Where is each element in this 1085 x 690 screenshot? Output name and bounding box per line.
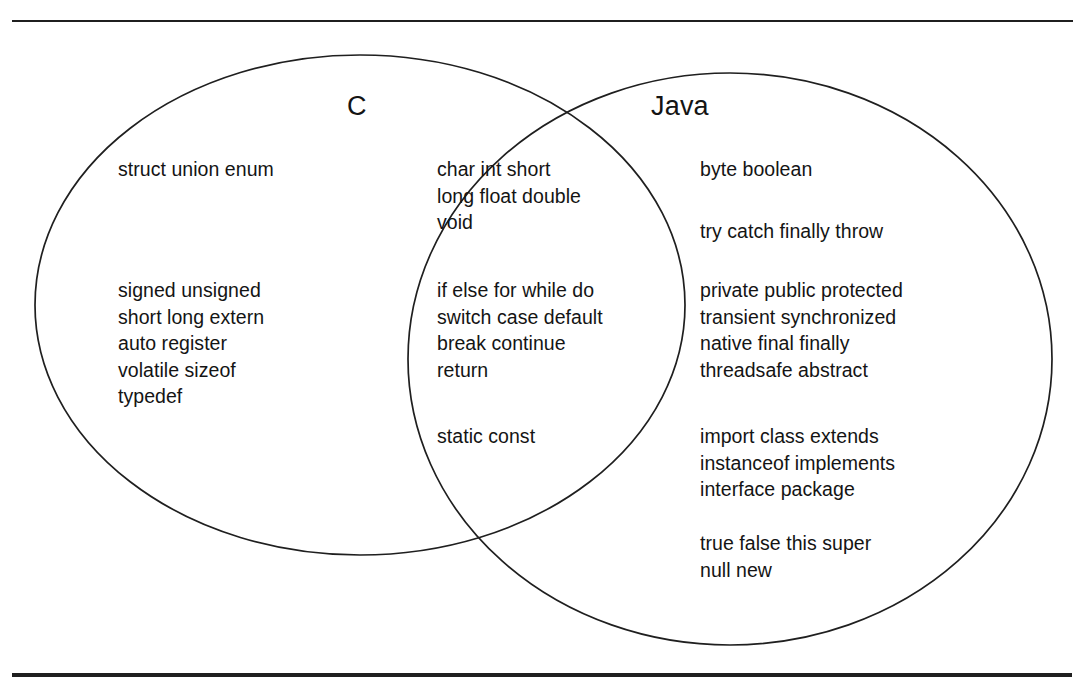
keyword-line: import class extends bbox=[700, 423, 895, 450]
keyword-line: long float double bbox=[437, 183, 581, 210]
keyword-line: auto register bbox=[118, 330, 264, 357]
keyword-line: interface package bbox=[700, 476, 895, 503]
keyword-line: char int short bbox=[437, 156, 581, 183]
keyword-line: instanceof implements bbox=[700, 450, 895, 477]
keyword-line: static const bbox=[437, 423, 535, 450]
keyword-line: volatile sizeof bbox=[118, 357, 264, 384]
keyword-block-c-storage-and-modifiers: signed unsignedshort long externauto reg… bbox=[118, 277, 264, 410]
rule-bottom bbox=[12, 673, 1072, 677]
keyword-block-shared-modifiers: static const bbox=[437, 423, 535, 450]
keyword-line: void bbox=[437, 209, 581, 236]
keyword-line: break continue bbox=[437, 330, 603, 357]
keyword-line: try catch finally throw bbox=[700, 218, 883, 245]
keyword-line: true false this super bbox=[700, 530, 871, 557]
keyword-block-java-modifiers: private public protectedtransient synchr… bbox=[700, 277, 903, 383]
keyword-block-c-user-types: struct union enum bbox=[118, 156, 274, 183]
keyword-line: short long extern bbox=[118, 304, 264, 331]
keyword-line: typedef bbox=[118, 383, 264, 410]
keyword-line: signed unsigned bbox=[118, 277, 264, 304]
keyword-block-java-literals: true false this supernull new bbox=[700, 530, 871, 583]
keyword-block-shared-primitive-types: char int shortlong float doublevoid bbox=[437, 156, 581, 236]
set-title-c: C bbox=[347, 93, 367, 120]
keyword-line: native final finally bbox=[700, 330, 903, 357]
keyword-block-shared-control-flow: if else for while doswitch case defaultb… bbox=[437, 277, 603, 383]
keyword-line: byte boolean bbox=[700, 156, 812, 183]
keyword-block-java-exceptions: try catch finally throw bbox=[700, 218, 883, 245]
keyword-line: if else for while do bbox=[437, 277, 603, 304]
keyword-block-java-oop-keywords: import class extendsinstanceof implement… bbox=[700, 423, 895, 503]
set-title-java: Java bbox=[651, 93, 709, 120]
keyword-line: struct union enum bbox=[118, 156, 274, 183]
keyword-block-java-primitive-types: byte boolean bbox=[700, 156, 812, 183]
keyword-line: private public protected bbox=[700, 277, 903, 304]
keyword-line: transient synchronized bbox=[700, 304, 903, 331]
keyword-line: return bbox=[437, 357, 603, 384]
keyword-line: threadsafe abstract bbox=[700, 357, 903, 384]
keyword-line: switch case default bbox=[437, 304, 603, 331]
venn-diagram-figure: C struct union enum signed unsignedshort… bbox=[0, 0, 1085, 690]
keyword-line: null new bbox=[700, 557, 871, 584]
